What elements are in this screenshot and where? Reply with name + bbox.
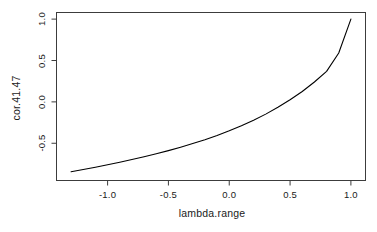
plot-box: [57, 13, 366, 181]
x-tick-label: -0.5: [160, 190, 177, 200]
y-tick-label: 0.0: [37, 95, 47, 109]
y-axis-title: cor.41.47: [10, 76, 22, 121]
y-axis-ticks: [52, 19, 57, 143]
data-series-line: [71, 19, 351, 172]
x-tick-label: -1.0: [99, 190, 116, 200]
chart-canvas: [0, 0, 377, 232]
chart-plot-area: -1.0-0.50.00.51.0 1.00.50.0-0.5 lambda.r…: [0, 0, 377, 232]
x-tick-label: 1.0: [344, 190, 358, 200]
x-axis-title: lambda.range: [179, 207, 246, 219]
x-axis-ticks: [108, 181, 351, 186]
x-tick-label: 0.5: [283, 190, 297, 200]
y-tick-label: -0.5: [37, 135, 47, 152]
y-tick-label: 1.0: [37, 12, 47, 26]
y-tick-label: 0.5: [37, 54, 47, 68]
x-tick-label: 0.0: [222, 190, 236, 200]
